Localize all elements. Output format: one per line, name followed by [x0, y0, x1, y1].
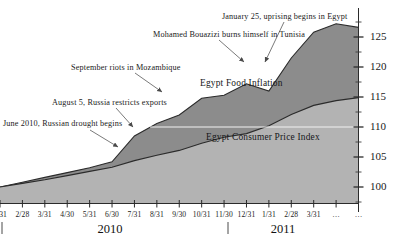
- year-label: 2010: [80, 222, 140, 237]
- y-tick-label: 110: [370, 120, 386, 132]
- annotation-arrow: [90, 130, 118, 147]
- annotation-label: June 2010, Russian drought begins: [3, 119, 122, 128]
- annotation-label: Mohamed Bouazizi burns himself in Tunisi…: [153, 30, 305, 39]
- series-label-food-inflation: Egypt Food Inflation: [200, 78, 283, 88]
- series-area-consumer-price-index: [0, 98, 359, 204]
- series-label-consumer-price-index: Egypt Consumer Price Index: [206, 132, 320, 142]
- year-label: 2011: [253, 222, 313, 237]
- x-tick-label: …: [344, 210, 374, 219]
- y-tick-label: 125: [370, 30, 387, 42]
- annotation-arrow: [135, 73, 162, 92]
- chart-container: Egypt Food InflationEgypt Consumer Price…: [0, 0, 397, 243]
- y-tick-label: 105: [370, 150, 387, 162]
- y-tick-label: 115: [370, 90, 386, 102]
- annotation-label: January 25, uprising begins in Egypt: [222, 12, 347, 21]
- annotation-label: August 5, Russia restricts exports: [52, 98, 167, 107]
- annotation-label: September riots in Mozambique: [71, 63, 181, 72]
- y-tick-label: 100: [370, 180, 387, 192]
- y-tick-label: 120: [370, 60, 387, 72]
- annotation-arrow: [265, 22, 284, 62]
- annotation-arrow: [219, 40, 244, 62]
